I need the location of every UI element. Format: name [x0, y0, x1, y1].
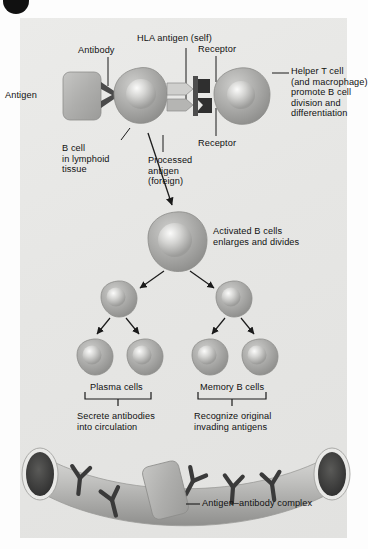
label-antibody: Antibody	[78, 45, 115, 56]
helper-t-cell	[214, 68, 270, 125]
vessel-lumen-right	[318, 452, 346, 496]
label-activated-b-cells: Activated B cells enlarges and divides	[213, 226, 299, 247]
label-receptor-top: Receptor	[198, 44, 236, 55]
activated-b-cell-nucleus	[158, 223, 192, 257]
plasma-cell-2	[127, 339, 163, 375]
label-helper-t-cell: Helper T cell (and macrophage) promote B…	[291, 66, 368, 119]
label-receptor-bottom: Receptor	[198, 138, 236, 149]
helper-t-nucleus	[227, 81, 255, 109]
activated-b-cell	[148, 212, 207, 272]
memory-cell-2	[242, 339, 278, 375]
label-b-cell-lymphoid: B cell in lymphoid tissue	[62, 143, 110, 175]
daughter-cell-left	[101, 281, 137, 317]
memory-cell-1	[192, 339, 228, 375]
b-cell-nucleus	[126, 79, 156, 109]
label-recognize-original: Recognize original invading antigens	[194, 411, 271, 432]
receptor-interface	[167, 76, 212, 116]
label-memory-b-cells: Memory B cells	[200, 382, 264, 393]
leader-bcell	[121, 128, 130, 140]
plasma-cell-1	[77, 339, 113, 375]
label-hla-antigen: HLA antigen (self)	[137, 33, 212, 44]
arrow-division-right	[190, 271, 214, 288]
bracket-plasma	[85, 392, 151, 406]
arrow-division-left	[140, 271, 164, 288]
blood-vessel	[22, 448, 350, 526]
label-processed-antigen: Processed antigen (foreign)	[148, 155, 192, 187]
vessel-lumen-left	[26, 452, 54, 496]
bracket-memory	[198, 392, 266, 406]
label-antigen-antibody-complex: Antigen–antibody complex	[202, 498, 312, 509]
arrows-second-division	[97, 318, 254, 334]
label-antigen: Antigen	[5, 90, 37, 101]
receptor-bottom-shape	[196, 98, 212, 113]
label-plasma-cells: Plasma cells	[90, 382, 143, 393]
b-cell	[114, 68, 167, 124]
label-secrete-antibodies: Secrete antibodies into circulation	[77, 411, 155, 432]
antigen-box	[63, 72, 101, 120]
daughter-cell-right	[216, 281, 252, 317]
receptor-top-shape	[196, 79, 210, 93]
